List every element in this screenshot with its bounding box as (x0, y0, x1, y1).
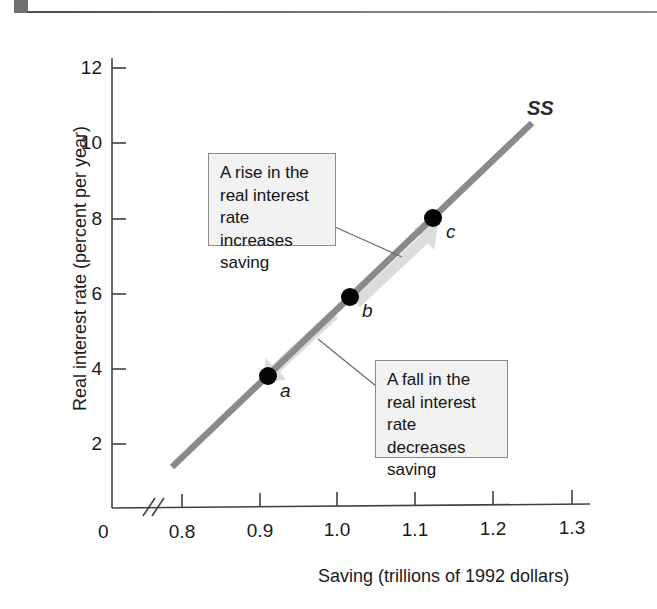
point-label-a: a (280, 380, 291, 402)
x-tick-label-1-3: 1.3 (549, 517, 595, 539)
x-tick-label-1-2: 1.2 (470, 518, 516, 540)
x-axis-line (112, 504, 590, 508)
annotation-fall-line-1: A fall in the (387, 369, 497, 392)
annotation-rise-line-4: saving (220, 252, 325, 275)
y-axis-ticks (112, 68, 126, 444)
data-point-b (341, 288, 359, 306)
annotation-fall-line-4: saving (387, 459, 497, 482)
origin-label: 0 (98, 521, 109, 543)
x-axis-title: Saving (trillions of 1992 dollars) (318, 566, 569, 587)
point-label-b: b (362, 300, 373, 322)
annotation-rise-line-1: A rise in the (220, 162, 325, 185)
annotation-fall-line-2: real interest (387, 392, 497, 415)
annotation-rise-line-2: real interest (220, 185, 325, 208)
leader-line-rise (335, 227, 402, 257)
data-point-a (259, 367, 277, 385)
x-tick-label-1-0: 1.0 (314, 519, 360, 541)
annotation-rise-line-3: rate increases (220, 207, 325, 252)
x-tick-label-0-8: 0.8 (159, 521, 205, 543)
point-label-c: c (446, 221, 456, 243)
leader-line-fall (318, 339, 376, 386)
data-point-c (424, 209, 442, 227)
annotation-fall-line-3: rate decreases (387, 414, 497, 459)
annotation-rise-box: A rise in the real interest rate increas… (208, 153, 336, 246)
x-tick-label-1-1: 1.1 (392, 519, 438, 541)
y-axis-title: Real interest rate (percent per year) (70, 69, 91, 469)
saving-supply-figure: 12 10 8 6 4 2 0 0.8 0.9 1.0 1.1 1.2 1.3 … (0, 0, 657, 609)
arrow-up-right-icon (352, 226, 438, 307)
curve-label-ss: SS (527, 97, 554, 120)
x-tick-label-0-9: 0.9 (237, 520, 283, 542)
annotation-fall-box: A fall in the real interest rate decreas… (375, 360, 508, 458)
